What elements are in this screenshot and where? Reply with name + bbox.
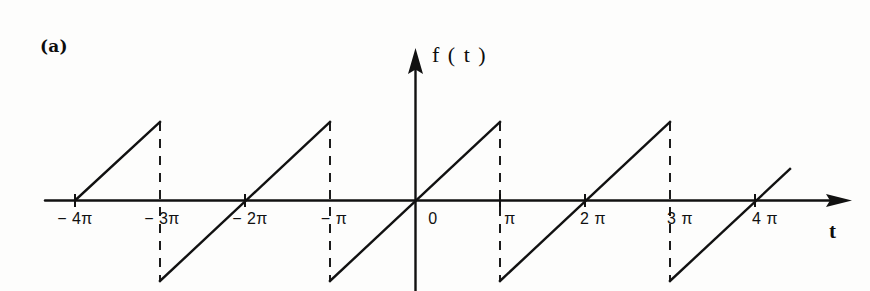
- x-tick-label-2pi: 2 π: [580, 210, 606, 228]
- y-axis: [408, 48, 423, 291]
- x-tick-label-minus-3pi: − 3π: [144, 210, 180, 228]
- x-tick-label-pi: π: [504, 210, 516, 228]
- x-tick-label-minus-pi: − π: [321, 210, 347, 228]
- x-tick-label-4pi: 4 π: [752, 210, 778, 228]
- x-tick-label-minus-2pi: − 2π: [232, 210, 268, 228]
- x-tick-label-3pi: 3 π: [667, 210, 693, 228]
- x-tick-label-minus-4pi: − 4π: [57, 210, 93, 228]
- figure-container: (a): [0, 0, 870, 291]
- x-axis: [45, 194, 852, 207]
- y-axis-label: f ( t ): [432, 42, 487, 68]
- x-axis-label: t: [829, 219, 836, 244]
- x-tick-label-zero: 0: [428, 210, 437, 228]
